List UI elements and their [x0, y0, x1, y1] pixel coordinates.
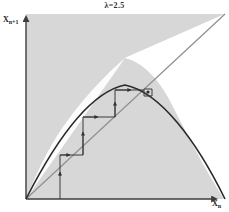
plot-canvas — [0, 0, 229, 212]
logistic-map-cobweb-figure: λ=2.5 Xn+1 Xn — [0, 0, 229, 212]
fixed-point-marker — [146, 90, 149, 93]
